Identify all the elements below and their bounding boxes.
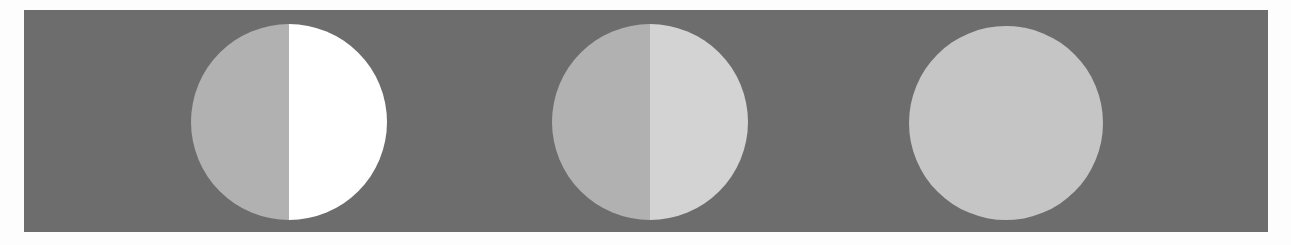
uniform-gray-disc bbox=[909, 26, 1103, 220]
split-disc-gray-lightgray bbox=[552, 24, 748, 220]
disc-right-half-white bbox=[289, 24, 387, 220]
figure-canvas bbox=[0, 0, 1291, 245]
disc-left-half-gray bbox=[552, 24, 650, 220]
disc-right-half-lightgray bbox=[650, 24, 748, 220]
split-disc-gray-white bbox=[191, 24, 387, 220]
disc-left-half-gray bbox=[191, 24, 289, 220]
